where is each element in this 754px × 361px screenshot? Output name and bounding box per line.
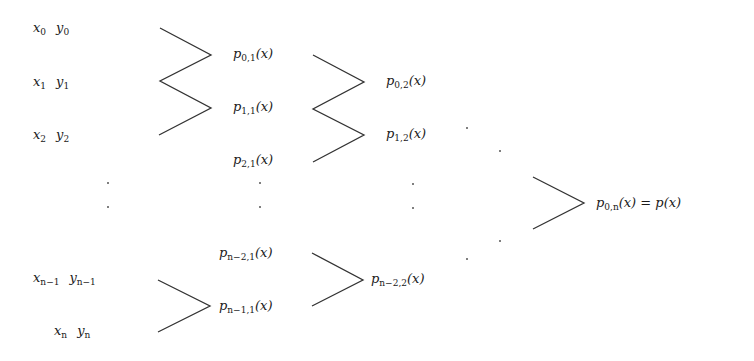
- ellipsis-dot: [107, 206, 109, 208]
- data-point-0: x0y0: [33, 20, 69, 36]
- diagonal-dot: [466, 258, 468, 260]
- p-1-2: p1,2(x): [386, 126, 426, 142]
- result-p-0-n: p0,n(x) = p(x): [596, 195, 681, 211]
- p-2-1: p2,1(x): [233, 152, 273, 168]
- data-point-2: x2y2: [33, 127, 69, 143]
- p-0-1: p0,1(x): [233, 46, 273, 62]
- p-0-2: p0,2(x): [386, 73, 426, 89]
- p-n-minus-1-1: pn−1,1(x): [219, 298, 272, 314]
- connector-lines: [0, 0, 754, 361]
- chevron-bottom-col0-to-col1: [158, 280, 210, 332]
- zigzag-col1-to-col2: [313, 55, 364, 162]
- data-point-n-minus-1: xn−1yn−1: [33, 270, 96, 286]
- ellipsis-dot: [259, 182, 261, 184]
- ellipsis-dot: [259, 206, 261, 208]
- chevron-final: [533, 177, 584, 229]
- ellipsis-dot: [412, 207, 414, 209]
- chevron-bottom-col1-to-col2: [312, 253, 363, 306]
- data-point-1: x1y1: [33, 74, 69, 90]
- p-n-minus-2-1: pn−2,1(x): [219, 245, 272, 261]
- diagonal-dot: [466, 127, 468, 129]
- diagonal-dot: [499, 240, 501, 242]
- ellipsis-dot: [412, 183, 414, 185]
- p-1-1: p1,1(x): [233, 99, 273, 115]
- data-point-n: xnyn: [54, 323, 90, 339]
- ellipsis-dot: [107, 182, 109, 184]
- diagonal-dot: [499, 150, 501, 152]
- p-n-minus-2-2: pn−2,2(x): [371, 271, 424, 287]
- zigzag-col0-to-col1: [159, 28, 211, 135]
